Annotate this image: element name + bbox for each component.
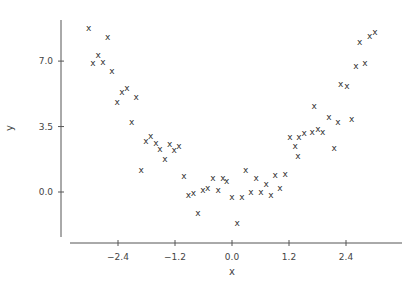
- scatter-chart: 0.03.57.0 y −2.4−1.20.01.22.4 x xxxxxxxx…: [0, 0, 419, 290]
- data-point-x-marker: x: [191, 188, 197, 198]
- y-tick-label: 7.0: [39, 56, 54, 66]
- data-point-x-marker: x: [176, 141, 182, 151]
- data-point-x-marker: x: [162, 154, 168, 164]
- y-axis-label: y: [4, 125, 15, 131]
- data-point-x-marker: x: [124, 83, 130, 93]
- data-point-x-marker: x: [273, 170, 279, 180]
- data-point-x-marker: x: [320, 127, 326, 137]
- data-point-x-marker: x: [181, 171, 187, 181]
- data-point-x-marker: x: [90, 58, 96, 68]
- data-point-x-marker: x: [105, 32, 111, 42]
- y-axis: 0.03.57.0 y: [4, 20, 64, 237]
- data-point-x-marker: x: [114, 97, 120, 107]
- data-point-x-marker: x: [353, 61, 359, 71]
- data-point-x-marker: x: [357, 37, 363, 47]
- data-point-x-marker: x: [243, 165, 249, 175]
- data-point-x-marker: x: [254, 173, 260, 183]
- data-point-x-marker: x: [344, 81, 350, 91]
- data-point-x-marker: x: [229, 192, 235, 202]
- data-point-x-marker: x: [109, 66, 115, 76]
- x-tick-label: −1.2: [164, 252, 186, 262]
- data-point-x-marker: x: [312, 101, 318, 111]
- data-point-x-marker: x: [133, 92, 139, 102]
- data-point-x-marker: x: [205, 183, 211, 193]
- data-point-x-marker: x: [283, 169, 289, 179]
- x-tick-label: 2.4: [339, 252, 354, 262]
- data-point-x-marker: x: [195, 208, 201, 218]
- data-point-x-marker: x: [372, 27, 378, 37]
- data-point-x-marker: x: [139, 165, 145, 175]
- x-tick-label: 1.2: [282, 252, 296, 262]
- data-point-x-marker: x: [224, 176, 230, 186]
- data-point-x-marker: x: [216, 185, 222, 195]
- data-point-x-marker: x: [302, 128, 308, 138]
- x-tick-label: 0.0: [225, 252, 240, 262]
- data-point-x-marker: x: [235, 218, 241, 228]
- data-point-x-marker: x: [86, 23, 92, 33]
- data-point-x-marker: x: [210, 173, 216, 183]
- data-point-x-marker: x: [362, 58, 368, 68]
- data-point-x-marker: x: [331, 143, 337, 153]
- data-point-x-marker: x: [129, 117, 135, 127]
- x-tick-label: −2.4: [107, 252, 129, 262]
- y-tick-label: 0.0: [39, 187, 54, 197]
- x-axis: −2.4−1.20.01.22.4 x: [70, 240, 402, 277]
- data-point-x-marker: x: [349, 114, 355, 124]
- data-point-x-marker: x: [326, 112, 332, 122]
- scatter-points: xxxxxxxxxxxxxxxxxxxxxxxxxxxxxxxxxxxxxxxx…: [86, 23, 378, 228]
- data-point-x-marker: x: [239, 192, 245, 202]
- data-point-x-marker: x: [293, 141, 299, 151]
- x-axis-label: x: [229, 266, 235, 277]
- data-point-x-marker: x: [277, 183, 283, 193]
- y-tick-label: 3.5: [39, 122, 53, 132]
- data-point-x-marker: x: [100, 57, 106, 67]
- data-point-x-marker: x: [268, 190, 274, 200]
- data-point-x-marker: x: [295, 151, 301, 161]
- data-point-x-marker: x: [264, 179, 270, 189]
- data-point-x-marker: x: [248, 187, 254, 197]
- data-point-x-marker: x: [335, 117, 341, 127]
- data-point-x-marker: x: [157, 144, 163, 154]
- data-point-x-marker: x: [338, 79, 344, 89]
